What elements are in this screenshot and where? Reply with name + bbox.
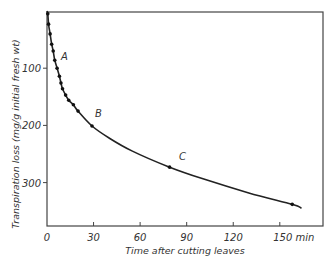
x-tick-label: 30 xyxy=(87,232,100,243)
data-point-marker xyxy=(61,87,65,91)
data-point-marker xyxy=(290,203,294,207)
y-tick-label: 300 xyxy=(22,178,41,189)
data-point-marker xyxy=(53,58,57,62)
y-axis-ticks: 100200300 xyxy=(22,63,47,188)
x-tick-label: 0 xyxy=(44,232,50,243)
plot-frame xyxy=(47,12,323,226)
data-point-marker xyxy=(59,81,63,85)
data-point-marker xyxy=(47,22,51,26)
transpiration-chart: 0306090120150 min 100200300 ABC Time aft… xyxy=(0,0,334,269)
point-label-c: C xyxy=(179,151,186,162)
x-tick-label: 90 xyxy=(180,232,193,243)
x-tick-label: 60 xyxy=(134,232,147,243)
data-point-marker xyxy=(90,124,94,128)
point-label-b: B xyxy=(95,108,102,119)
y-axis-title: Transpiration loss (mg/g initial fresh w… xyxy=(10,39,21,228)
data-point-marker xyxy=(168,165,172,169)
point-label-a: A xyxy=(60,51,68,62)
data-point-marker xyxy=(48,32,52,36)
x-axis-title: Time after cutting leaves xyxy=(125,245,244,256)
data-point-marker xyxy=(67,98,71,102)
data-point-marker xyxy=(72,103,76,107)
data-markers xyxy=(46,12,294,206)
y-tick-label: 100 xyxy=(22,63,41,74)
data-point-marker xyxy=(58,74,62,78)
data-point-marker xyxy=(64,93,68,97)
data-line xyxy=(47,11,302,208)
data-point-marker xyxy=(55,66,59,70)
x-axis-ticks: 0306090120150 min xyxy=(44,222,315,243)
data-point-marker xyxy=(51,49,55,53)
point-annotations: ABC xyxy=(60,51,186,162)
data-point-marker xyxy=(46,12,50,16)
data-point-marker xyxy=(50,42,54,46)
y-tick-label: 200 xyxy=(22,120,41,131)
x-tick-label: 120 xyxy=(224,232,243,243)
x-tick-label: 150 min xyxy=(273,232,314,243)
data-point-marker xyxy=(76,109,80,113)
